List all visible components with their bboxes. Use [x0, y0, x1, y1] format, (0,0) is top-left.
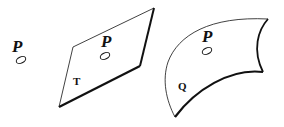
- curved-surface: [165, 19, 268, 117]
- point-label-isolated: P: [12, 38, 22, 55]
- point-label-surface: P: [202, 28, 212, 45]
- plane-edge-top: [73, 8, 154, 47]
- point-marker-plane: [99, 51, 111, 61]
- flat-plane: [59, 8, 154, 107]
- plane-edge-bottom: [59, 66, 140, 107]
- surface-label-curved: Q: [178, 81, 187, 92]
- surface-edge-bottom: [175, 72, 263, 117]
- diagram-canvas: [0, 0, 284, 127]
- plane-edge-left: [59, 47, 73, 107]
- surface-edge-top-left: [165, 19, 268, 117]
- surface-edge-right: [257, 19, 268, 72]
- plane-edge-right: [140, 8, 154, 66]
- surface-label-plane: T: [73, 76, 80, 87]
- point-marker-isolated: [15, 55, 27, 65]
- point-marker-surface: [201, 46, 213, 56]
- point-label-plane: P: [101, 33, 111, 50]
